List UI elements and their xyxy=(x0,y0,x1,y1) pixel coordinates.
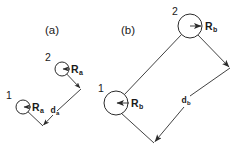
distance-subscript: a xyxy=(56,110,60,116)
node-number-label: 1 xyxy=(6,89,12,101)
radius-subscript: b xyxy=(213,26,217,33)
panel-b: (b) 2 Rb 1 xyxy=(98,5,230,143)
distance-subscript: b xyxy=(187,100,191,106)
node-number-label: 2 xyxy=(45,51,51,63)
edge-right-to-distance xyxy=(190,68,230,96)
edge-right-to-distance xyxy=(57,89,81,111)
radius-subscript: a xyxy=(79,69,83,76)
panel-b-distance-label: db xyxy=(181,95,191,106)
diagram-canvas: (a) 1 Ra 2 xyxy=(0,0,242,153)
radius-label: Ra xyxy=(71,63,83,76)
radius-label: Rb xyxy=(131,97,143,110)
panel-b-parallelogram xyxy=(121,34,230,143)
panel-a-distance-label: da xyxy=(51,105,61,116)
radius-label: Rb xyxy=(205,20,217,33)
edge-node2-to-right xyxy=(197,34,229,67)
panel-b-title: (b) xyxy=(121,24,135,36)
radius-label: Ra xyxy=(32,101,44,114)
radius-symbol: R xyxy=(32,101,40,113)
panel-a-parallelogram xyxy=(24,69,81,126)
panel-b-node-1[interactable]: 1 Rb xyxy=(98,82,143,115)
node-number-label: 1 xyxy=(98,82,104,94)
figure-container: (a) 1 Ra 2 xyxy=(0,0,242,153)
distance-symbol: d xyxy=(181,95,186,105)
edge-bottom-to-node1 xyxy=(121,113,154,143)
radius-subscript: a xyxy=(40,107,44,114)
edge-distance-to-bottom xyxy=(155,107,184,142)
radius-symbol: R xyxy=(205,20,213,32)
radius-subscript: b xyxy=(139,103,143,110)
node-number-label: 2 xyxy=(172,5,178,17)
panel-a-node-1[interactable]: 1 Ra xyxy=(6,89,44,114)
radius-symbol: R xyxy=(131,97,139,109)
edge-node1-to-node2 xyxy=(124,34,182,95)
panel-a-node-2[interactable]: 2 Ra xyxy=(45,51,83,76)
panel-b-node-2[interactable]: 2 Rb xyxy=(172,5,217,38)
panel-a: (a) 1 Ra 2 xyxy=(6,24,83,126)
radius-symbol: R xyxy=(71,63,79,75)
edge-distance-to-bottom xyxy=(44,115,54,125)
distance-symbol: d xyxy=(51,105,56,115)
panel-a-title: (a) xyxy=(45,24,59,36)
